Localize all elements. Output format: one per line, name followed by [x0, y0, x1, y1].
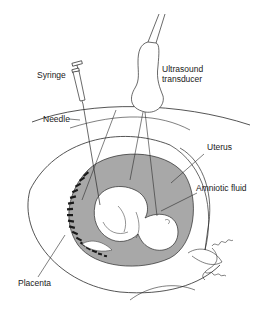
label-syringe: Syringe: [37, 70, 66, 80]
label-uterus: Uterus: [207, 142, 232, 152]
fallopian-squiggle-top: [212, 240, 233, 246]
label-ultrasound: Ultrasound: [162, 64, 203, 74]
label-transducer: transducer: [162, 74, 202, 84]
syringe: [72, 61, 85, 104]
label-amniotic-fluid: Amniotic fluid: [196, 183, 247, 193]
label-placenta: Placenta: [18, 278, 51, 288]
abdominal-inner-curve: [70, 117, 190, 130]
fallopian-squiggle-bottom: [205, 272, 226, 276]
label-needle: Needle: [43, 114, 70, 124]
diagram-illustration: [0, 0, 261, 310]
ultrasound-transducer: [131, 14, 165, 112]
placenta-leader: [38, 235, 65, 277]
needle-leader: [69, 119, 80, 120]
amniocentesis-diagram: Syringe Needle Ultrasound transducer Ute…: [0, 0, 261, 310]
